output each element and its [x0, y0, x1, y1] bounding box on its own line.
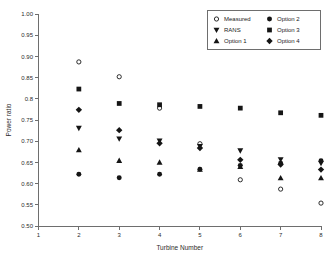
series-option-1	[76, 147, 324, 180]
chart-legend: MeasuredRANSOption 1Option 2Option 3Opti…	[208, 11, 321, 50]
y-axis-title: Power ratio	[5, 103, 12, 136]
y-axis: 0.500.550.600.650.700.750.80.850.900.951…	[5, 11, 39, 229]
data-point-triangle-up	[278, 175, 284, 180]
x-tick-label: 7	[279, 232, 283, 238]
data-point-diamond	[318, 166, 324, 172]
data-point-triangle-up	[157, 159, 163, 164]
data-point-square	[117, 101, 122, 106]
data-point-open-circle	[117, 75, 121, 79]
data-point-circle	[76, 172, 81, 177]
data-point-triangle-up	[116, 158, 122, 163]
y-tick-label: 0.90	[21, 54, 33, 60]
y-axis-ticks: 0.500.550.600.650.700.750.80.850.900.951…	[21, 11, 38, 229]
data-point-square	[278, 110, 283, 115]
x-tick-label: 5	[198, 232, 202, 238]
legend-marker-square	[267, 28, 272, 33]
x-tick-label: 3	[118, 232, 122, 238]
y-tick-label: 0.65	[21, 160, 33, 166]
legend-label: Option 1	[224, 38, 247, 44]
data-point-diamond	[197, 145, 203, 151]
y-tick-label: 0.85	[21, 75, 33, 81]
data-point-diamond	[116, 127, 122, 133]
power-ratio-scatter-chart: 0.500.550.600.650.700.750.80.850.900.951…	[0, 0, 330, 265]
x-axis-ticks: 12345678	[37, 226, 324, 238]
data-point-square	[157, 102, 162, 107]
legend-label: RANS	[224, 27, 241, 33]
data-point-circle	[157, 172, 162, 177]
data-point-open-circle	[279, 187, 283, 191]
y-tick-label: 1.00	[21, 11, 33, 17]
data-point-circle	[197, 167, 202, 172]
data-point-square	[238, 106, 243, 111]
y-tick-label: 0.55	[21, 202, 33, 208]
data-point-circle	[319, 158, 324, 163]
y-tick-label: 0.75	[21, 117, 33, 123]
x-tick-label: 2	[77, 232, 81, 238]
data-point-diamond	[76, 107, 82, 113]
x-tick-label: 8	[319, 232, 323, 238]
x-axis: 12345678 Turbine Number	[37, 226, 324, 251]
x-tick-label: 4	[158, 232, 162, 238]
data-point-circle	[117, 175, 122, 180]
legend-label: Option 4	[277, 38, 300, 44]
data-point-open-circle	[238, 178, 242, 182]
legend-marker-open-circle	[214, 17, 218, 21]
legend-label: Measured	[224, 16, 251, 22]
legend-label: Option 2	[277, 16, 300, 22]
y-tick-label: 0.8	[25, 96, 34, 102]
data-point-circle	[238, 163, 243, 168]
data-point-square	[76, 87, 81, 92]
data-point-open-circle	[77, 60, 81, 64]
x-axis-title: Turbine Number	[156, 244, 204, 251]
plot-area: 0.500.550.600.650.700.750.80.850.900.951…	[0, 0, 330, 265]
y-tick-label: 0.60	[21, 181, 33, 187]
series-option-2	[76, 158, 323, 180]
data-point-diamond	[156, 140, 162, 146]
data-point-triangle-down	[237, 148, 243, 153]
data-point-square	[319, 113, 324, 118]
data-point-triangle-up	[318, 175, 324, 180]
series-option-4	[76, 107, 325, 173]
data-point-triangle-up	[76, 147, 82, 152]
data-point-triangle-down	[116, 136, 122, 141]
y-tick-label: 0.50	[21, 223, 33, 229]
series-option-3	[76, 87, 323, 118]
y-tick-label: 0.70	[21, 138, 33, 144]
data-point-square	[198, 104, 203, 109]
legend-marker-circle	[267, 17, 272, 22]
data-point-group	[76, 60, 325, 205]
x-tick-label: 6	[239, 232, 243, 238]
legend-label: Option 3	[277, 27, 300, 33]
series-measured	[77, 60, 323, 205]
data-point-open-circle	[319, 201, 323, 205]
y-tick-label: 0.95	[21, 32, 33, 38]
data-point-triangle-down	[76, 126, 82, 131]
data-point-diamond	[237, 157, 243, 163]
x-tick-label: 1	[37, 232, 41, 238]
